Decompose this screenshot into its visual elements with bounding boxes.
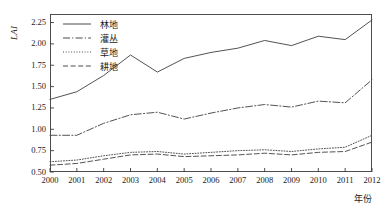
legend-item[interactable]: 林地	[63, 17, 155, 31]
series-line-dashed	[50, 142, 372, 165]
line-key-dashdot-icon	[63, 33, 91, 43]
legend-item[interactable]: 耕地	[63, 59, 155, 73]
series-line-dashdot	[50, 80, 372, 136]
chart-figure: LAI 0.500.751.001.251.501.752.002.25 200…	[0, 0, 384, 214]
chart-legend: 林地灌丛草地耕地	[63, 17, 155, 73]
line-key-dotted-icon	[63, 47, 91, 57]
legend-item[interactable]: 灌丛	[63, 31, 155, 45]
legend-item-label: 林地	[91, 18, 118, 31]
legend-item-label: 耕地	[91, 60, 118, 73]
legend-item-label: 灌丛	[91, 32, 118, 45]
legend-item-label: 草地	[91, 46, 118, 59]
legend-item[interactable]: 草地	[63, 45, 155, 59]
line-key-dashed-icon	[63, 61, 91, 71]
line-key-solid-icon	[63, 19, 91, 29]
plot-area	[0, 0, 384, 214]
series-line-dotted	[50, 135, 372, 161]
